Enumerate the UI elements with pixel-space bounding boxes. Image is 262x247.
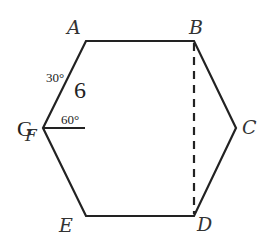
vertex-label-b: B (188, 16, 203, 38)
vertex-label-c: C (242, 116, 257, 138)
vertex-label-e: E (58, 214, 73, 236)
vertex-label-d: D (196, 213, 212, 235)
vertex-label-f: F (24, 125, 38, 145)
side-length-label: 6 (74, 77, 86, 103)
hexagon-diagram: A B C D E G F 6 30° 60° (0, 0, 262, 247)
vertex-label-a: A (65, 16, 81, 38)
angle-label-bottom: 60° (61, 112, 79, 127)
angle-label-top: 30° (46, 70, 64, 85)
